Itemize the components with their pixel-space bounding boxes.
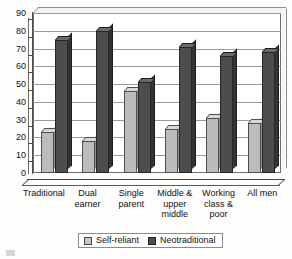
y-tick-mark-60: [28, 72, 33, 73]
y-tick-mark-40: [28, 108, 33, 109]
legend-item-neotraditional[interactable]: Neotraditional: [148, 236, 216, 245]
y-tick-label-0: 0: [0, 169, 26, 178]
scan-artifact: [6, 250, 15, 256]
y-tick-label-80: 80: [0, 27, 26, 36]
bar-face: [124, 91, 137, 173]
x-axis-front-line: [22, 185, 280, 186]
bar-self-reliant-all-men: [248, 123, 261, 173]
y-tick-label-90: 90: [0, 9, 26, 18]
y-tick-mark-30: [28, 126, 33, 127]
bar-group: [33, 13, 74, 173]
bar-neotraditional-all-men: [262, 52, 275, 173]
x-axis-label-line: class &: [193, 199, 245, 210]
bar-face: [262, 52, 275, 173]
bar-self-reliant-dual-earner: [82, 141, 95, 173]
bar-face: [82, 141, 95, 173]
plot-area: [33, 13, 281, 173]
bar-side: [68, 32, 72, 169]
legend-label: Self-reliant: [96, 236, 139, 245]
x-axis-label-all-men: All men: [236, 188, 288, 199]
bar-side: [233, 48, 237, 169]
x-axis-line: [27, 179, 285, 180]
y-tick-mark-0: [28, 179, 33, 180]
x-axis-label-line: All men: [236, 188, 288, 199]
y-tick-mark-10: [28, 161, 33, 162]
y-tick-label-50: 50: [0, 80, 26, 89]
bar-group: [198, 13, 239, 173]
bar-neotraditional-middle-upper-middle: [179, 47, 192, 173]
bar-self-reliant-middle-upper-middle: [165, 129, 178, 173]
y-tick-mark-50: [28, 90, 33, 91]
bar-chart: 9080706050403020100 TraditionalDualearne…: [0, 0, 292, 259]
bar-neotraditional-traditional: [55, 40, 68, 173]
bar-side: [275, 45, 279, 169]
y-tick-label-60: 60: [0, 62, 26, 71]
y-tick-label-70: 70: [0, 45, 26, 54]
y-tick-mark-70: [28, 55, 33, 56]
bar-face: [220, 56, 233, 173]
y-tick-mark-90: [28, 19, 33, 20]
bar-side: [192, 39, 196, 169]
legend-swatch-light: [84, 237, 92, 245]
axis-corner-right: [278, 179, 287, 188]
legend-swatch-dark: [148, 237, 156, 245]
plot-depth-right: [281, 8, 287, 173]
bar-face: [138, 82, 151, 173]
bar-self-reliant-single-parent: [124, 91, 137, 173]
bar-face: [179, 47, 192, 173]
y-tick-mark-80: [28, 37, 33, 38]
bar-group: [74, 13, 115, 173]
bar-face: [41, 132, 54, 173]
y-axis-depth-line: [28, 18, 29, 174]
legend-label: Neotraditional: [160, 236, 216, 245]
bar-group: [240, 13, 281, 173]
bar-face: [55, 40, 68, 173]
y-tick-label-20: 20: [0, 133, 26, 142]
bar-group: [157, 13, 198, 173]
y-tick-label-30: 30: [0, 116, 26, 125]
bar-face: [96, 31, 109, 173]
y-tick-label-10: 10: [0, 151, 26, 160]
bar-neotraditional-dual-earner: [96, 31, 109, 173]
bar-face: [248, 123, 261, 173]
chart-legend: Self-reliantNeotraditional: [78, 233, 223, 248]
bar-side: [109, 23, 113, 169]
bar-neotraditional-working-class-poor: [220, 56, 233, 173]
bar-face: [206, 118, 219, 173]
x-axis-category-labels: TraditionalDualearnerSingleparentMiddle …: [22, 188, 284, 232]
y-tick-mark-20: [28, 143, 33, 144]
axis-corner-left: [22, 179, 29, 186]
legend-item-self-reliant[interactable]: Self-reliant: [84, 236, 139, 245]
bar-side: [151, 75, 155, 169]
y-tick-label-40: 40: [0, 98, 26, 107]
bar-self-reliant-working-class-poor: [206, 118, 219, 173]
bar-neotraditional-single-parent: [138, 82, 151, 173]
x-axis-label-line: poor: [193, 209, 245, 220]
bar-group: [116, 13, 157, 173]
bar-self-reliant-traditional: [41, 132, 54, 173]
bar-face: [165, 129, 178, 173]
